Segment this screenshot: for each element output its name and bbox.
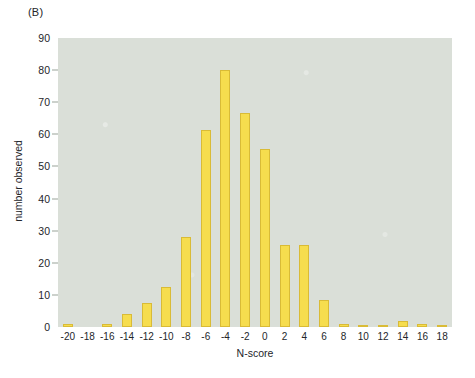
x-tick-label: 18 bbox=[437, 331, 448, 342]
x-tick-label: 2 bbox=[282, 331, 288, 342]
y-tick-label: 20 bbox=[38, 257, 50, 269]
x-tick-label: -16 bbox=[100, 331, 114, 342]
y-tick-label: 90 bbox=[38, 32, 50, 44]
x-tick-label: 0 bbox=[262, 331, 268, 342]
x-tick-label: 8 bbox=[341, 331, 347, 342]
x-tick-label: 4 bbox=[301, 331, 307, 342]
x-tick-label: 12 bbox=[377, 331, 388, 342]
bar bbox=[260, 149, 270, 327]
figure-panel-b: (B) number observed 0102030405060708090 … bbox=[0, 0, 475, 378]
x-tick-label: 16 bbox=[417, 331, 428, 342]
x-tick-label: -8 bbox=[182, 331, 191, 342]
x-tick-label: -12 bbox=[139, 331, 153, 342]
y-tick-label: 40 bbox=[38, 193, 50, 205]
bar bbox=[181, 237, 191, 327]
y-tick-label: 80 bbox=[38, 64, 50, 76]
bar bbox=[161, 287, 171, 327]
bar bbox=[201, 130, 211, 327]
y-tick-label: 10 bbox=[38, 289, 50, 301]
y-tick-label: 30 bbox=[38, 225, 50, 237]
plot-area bbox=[58, 38, 452, 327]
y-tick-label: 60 bbox=[38, 128, 50, 140]
y-tick-label: 50 bbox=[38, 160, 50, 172]
bar bbox=[299, 245, 309, 327]
y-axis: number observed 0102030405060708090 bbox=[0, 38, 58, 327]
bar bbox=[142, 303, 152, 327]
bar bbox=[437, 325, 447, 327]
x-tick-label: -10 bbox=[159, 331, 173, 342]
bar bbox=[358, 325, 368, 327]
bar bbox=[122, 314, 132, 327]
x-tick-label: 10 bbox=[358, 331, 369, 342]
bar bbox=[102, 324, 112, 327]
x-tick-label: -18 bbox=[80, 331, 94, 342]
x-tick-label: -2 bbox=[241, 331, 250, 342]
y-tick-label: 70 bbox=[38, 96, 50, 108]
x-tick-label: 14 bbox=[397, 331, 408, 342]
y-axis-title: number observed bbox=[12, 81, 24, 281]
x-tick-label: -14 bbox=[120, 331, 134, 342]
bar bbox=[220, 70, 230, 327]
bar bbox=[378, 325, 388, 327]
panel-label: (B) bbox=[28, 6, 43, 18]
bar-series bbox=[58, 38, 452, 327]
bar bbox=[240, 113, 250, 327]
bar bbox=[63, 324, 73, 327]
bar bbox=[398, 321, 408, 327]
x-tick-label: 6 bbox=[321, 331, 327, 342]
x-tick-label: -20 bbox=[61, 331, 75, 342]
bar bbox=[417, 324, 427, 327]
bar bbox=[319, 300, 329, 327]
x-axis-title: N-score bbox=[58, 347, 452, 359]
x-tick-label: -6 bbox=[201, 331, 210, 342]
bar bbox=[339, 324, 349, 327]
x-tick-label: -4 bbox=[221, 331, 230, 342]
y-tick-label: 0 bbox=[44, 321, 50, 333]
bar bbox=[280, 245, 290, 327]
